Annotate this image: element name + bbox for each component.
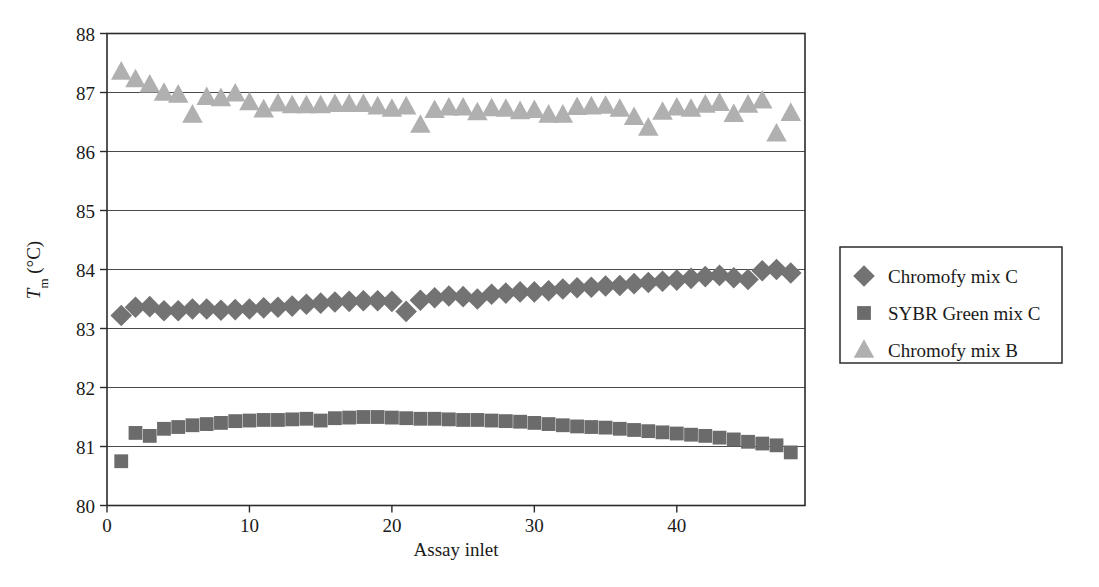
y-tick-label: 82 bbox=[76, 378, 95, 399]
data-point bbox=[513, 415, 527, 429]
data-point bbox=[599, 421, 613, 435]
data-point bbox=[300, 412, 314, 426]
y-axis-title-sub: m bbox=[36, 278, 51, 288]
y-tick-label: 84 bbox=[76, 260, 96, 281]
data-point bbox=[741, 435, 755, 449]
legend-label: SYBR Green mix C bbox=[888, 303, 1041, 324]
data-point bbox=[413, 412, 427, 426]
data-point bbox=[371, 410, 385, 424]
data-point bbox=[456, 413, 470, 427]
data-point bbox=[755, 437, 769, 451]
legend-marker-square bbox=[857, 306, 871, 320]
y-axis-title-unit: (°C) bbox=[23, 241, 45, 279]
data-point bbox=[527, 416, 541, 430]
data-point bbox=[214, 416, 228, 430]
y-tick-label: 85 bbox=[76, 201, 95, 222]
y-tick-label: 81 bbox=[76, 437, 95, 458]
data-point bbox=[271, 413, 285, 427]
data-point bbox=[542, 417, 556, 431]
data-point bbox=[385, 411, 399, 425]
data-point bbox=[342, 411, 356, 425]
data-point bbox=[186, 418, 200, 432]
data-point bbox=[399, 411, 413, 425]
data-point bbox=[684, 428, 698, 442]
data-point bbox=[257, 413, 271, 427]
legend: Chromofy mix CSYBR Green mix CChromofy m… bbox=[840, 247, 1062, 363]
data-point bbox=[613, 422, 627, 436]
y-tick-label: 83 bbox=[76, 319, 95, 340]
data-point bbox=[470, 413, 484, 427]
data-point bbox=[485, 414, 499, 428]
data-point bbox=[171, 420, 185, 434]
scatter-chart: 808182838485868788 010203040 Assay inlet… bbox=[0, 0, 1099, 587]
data-point bbox=[428, 412, 442, 426]
data-point bbox=[157, 422, 171, 436]
x-tick-label: 40 bbox=[667, 515, 686, 536]
data-point bbox=[129, 426, 143, 440]
data-point bbox=[114, 454, 128, 468]
data-point bbox=[670, 427, 684, 441]
y-tick-label: 80 bbox=[76, 496, 95, 517]
legend-label: Chromofy mix B bbox=[888, 340, 1018, 361]
data-point bbox=[228, 414, 242, 428]
x-tick-label: 10 bbox=[240, 515, 259, 536]
x-axis-title: Assay inlet bbox=[414, 539, 500, 560]
data-point bbox=[656, 425, 670, 439]
data-point bbox=[727, 433, 741, 447]
data-point bbox=[627, 423, 641, 437]
y-tick-labels: 808182838485868788 bbox=[76, 24, 96, 517]
data-point bbox=[200, 417, 214, 431]
y-tick-label: 88 bbox=[76, 24, 95, 45]
legend-label: Chromofy mix C bbox=[888, 266, 1018, 287]
data-point bbox=[584, 420, 598, 434]
data-point bbox=[499, 414, 513, 428]
y-tick-label: 86 bbox=[76, 142, 95, 163]
data-point bbox=[314, 414, 328, 428]
data-point bbox=[570, 420, 584, 434]
x-tick-label: 30 bbox=[525, 515, 544, 536]
data-point bbox=[770, 438, 784, 452]
data-point bbox=[698, 429, 712, 443]
chart-figure: 808182838485868788 010203040 Assay inlet… bbox=[0, 0, 1099, 587]
data-point bbox=[357, 410, 371, 424]
data-point bbox=[243, 414, 257, 428]
x-tick-label: 20 bbox=[382, 515, 401, 536]
data-point bbox=[713, 431, 727, 445]
y-tick-label: 87 bbox=[76, 83, 95, 104]
data-point bbox=[328, 411, 342, 425]
data-point bbox=[143, 429, 157, 443]
data-point bbox=[442, 412, 456, 426]
data-point bbox=[285, 412, 299, 426]
data-point bbox=[556, 418, 570, 432]
x-tick-label: 0 bbox=[102, 515, 112, 536]
data-point bbox=[784, 446, 798, 460]
data-point bbox=[641, 424, 655, 438]
